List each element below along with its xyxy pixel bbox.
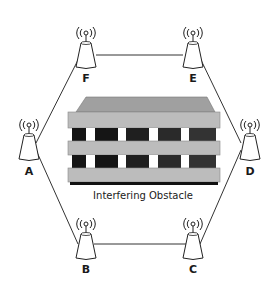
obstacle-windows-row-2 bbox=[72, 155, 216, 168]
node-c: C bbox=[183, 218, 203, 276]
tower-icon bbox=[76, 218, 96, 260]
node-label-f: F bbox=[82, 72, 90, 85]
node-label-c: C bbox=[189, 263, 197, 276]
node-label-a: A bbox=[25, 165, 34, 178]
obstacle-roof bbox=[76, 97, 215, 112]
link-a-f bbox=[36, 60, 78, 143]
obstacle-base bbox=[70, 182, 218, 185]
tower-icon bbox=[183, 218, 203, 260]
node-label-b: B bbox=[82, 263, 90, 276]
tower-icon bbox=[183, 27, 203, 69]
tower-icon bbox=[240, 119, 260, 161]
tower-icon bbox=[19, 119, 39, 161]
interfering-obstacle bbox=[68, 97, 220, 185]
obstacle-label: Interfering Obstacle bbox=[93, 190, 193, 201]
tower-icon bbox=[76, 27, 96, 69]
node-e: E bbox=[183, 27, 203, 85]
node-a: A bbox=[19, 119, 39, 178]
obstacle-windows-row-1 bbox=[72, 128, 216, 141]
node-b: B bbox=[76, 218, 96, 276]
node-f: F bbox=[76, 27, 96, 85]
obstacle-band-top bbox=[68, 112, 220, 128]
node-d: D bbox=[240, 119, 260, 178]
link-b-a bbox=[36, 150, 78, 244]
network-diagram: Interfering Obstacle F E A D bbox=[0, 0, 273, 286]
node-label-d: D bbox=[245, 165, 254, 178]
obstacle-band-bottom bbox=[68, 168, 220, 182]
node-label-e: E bbox=[189, 72, 197, 85]
obstacle-band-middle bbox=[68, 141, 220, 155]
